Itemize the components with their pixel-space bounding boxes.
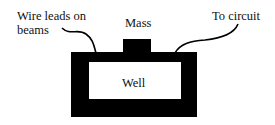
- proof-mass: [123, 39, 151, 53]
- left-wire-lead: [62, 28, 96, 53]
- wire-leads-label-line1: Wire leads on: [17, 10, 86, 23]
- well-label: Well: [122, 77, 145, 90]
- mass-label: Mass: [125, 17, 151, 30]
- wire-leads-label-line2: beams: [17, 24, 49, 37]
- to-circuit-label: To circuit: [212, 10, 260, 23]
- right-wire-lead: [175, 24, 238, 53]
